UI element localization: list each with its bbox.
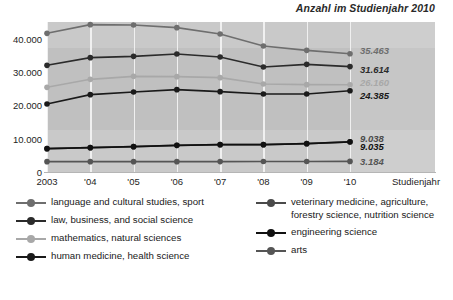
- data-point: [347, 64, 353, 70]
- legend-marker-icon: [16, 251, 46, 263]
- x-tick-label: '08: [257, 176, 269, 187]
- data-point: [87, 159, 93, 165]
- data-point: [44, 159, 50, 165]
- data-point: [347, 88, 353, 94]
- data-point: [44, 101, 50, 107]
- data-point: [304, 141, 310, 147]
- data-point: [44, 63, 50, 69]
- data-point: [174, 143, 180, 149]
- legend-item[interactable]: human medicine, health science: [16, 250, 256, 263]
- data-point: [347, 159, 353, 165]
- data-point: [131, 159, 137, 165]
- chart-title: Anzahl im Studienjahr 2010: [296, 2, 435, 14]
- data-point: [261, 81, 267, 87]
- data-point: [261, 43, 267, 49]
- x-tick-label: '05: [127, 176, 139, 187]
- x-axis-title: Studienjahr: [392, 176, 440, 187]
- legend-item[interactable]: language and cultural studies, sport: [16, 196, 256, 209]
- x-tick-label: '09: [301, 176, 313, 187]
- legend-label: human medicine, health science: [51, 250, 189, 263]
- end-value-label: 26.160: [360, 76, 389, 87]
- data-point: [347, 139, 353, 145]
- legend-item[interactable]: law, business, and social science: [16, 214, 256, 227]
- data-point: [217, 75, 223, 81]
- data-point: [44, 85, 50, 91]
- data-point: [174, 25, 180, 31]
- data-point: [261, 159, 267, 165]
- chart-root: Anzahl im Studienjahr 2010 010.00020.000…: [0, 0, 453, 300]
- data-point: [217, 89, 223, 95]
- data-point: [131, 144, 137, 150]
- data-point: [131, 89, 137, 95]
- series-line-3: [47, 90, 350, 104]
- chart-legend: language and cultural studies, sportlaw,…: [0, 196, 453, 300]
- data-point: [347, 82, 353, 88]
- data-point: [217, 142, 223, 148]
- legend-column-left: language and cultural studies, sportlaw,…: [16, 196, 256, 268]
- legend-marker-icon: [256, 197, 286, 209]
- data-point: [87, 145, 93, 151]
- legend-marker-icon: [16, 215, 46, 227]
- legend-label: mathematics, natural sciences: [51, 232, 181, 245]
- x-tick-label: '04: [84, 176, 96, 187]
- legend-marker-icon: [16, 233, 46, 245]
- y-tick-label: 30.000: [13, 67, 42, 78]
- x-tick-label: '06: [171, 176, 183, 187]
- legend-label: arts: [291, 244, 307, 257]
- data-point: [261, 64, 267, 70]
- data-point: [217, 159, 223, 165]
- x-tick-label: 2003: [36, 176, 57, 187]
- data-point: [261, 91, 267, 97]
- legend-marker-icon: [256, 245, 286, 257]
- x-axis-line: [44, 172, 436, 173]
- data-point: [261, 142, 267, 148]
- end-value-label: 3.184: [360, 156, 384, 167]
- data-point: [217, 54, 223, 60]
- legend-item[interactable]: arts: [256, 244, 451, 257]
- end-value-label: 24.385: [360, 89, 389, 100]
- legend-label: law, business, and social science: [51, 214, 193, 227]
- legend-column-right: veterinary medicine, agriculture, forest…: [256, 196, 451, 262]
- legend-label: engineering science: [291, 226, 377, 239]
- data-point: [304, 48, 310, 54]
- end-value-label: 31.614: [360, 63, 389, 74]
- end-value-label: 9.035: [360, 140, 384, 151]
- end-value-label: 35.463: [360, 44, 389, 55]
- data-point: [217, 31, 223, 37]
- legend-marker-icon: [256, 227, 286, 239]
- legend-label: language and cultural studies, sport: [51, 196, 204, 209]
- x-tick-label: '07: [214, 176, 226, 187]
- legend-marker-icon: [16, 197, 46, 209]
- legend-label: veterinary medicine, agriculture, forest…: [291, 196, 451, 221]
- y-tick-label: 20.000: [13, 100, 42, 111]
- data-point: [87, 55, 93, 61]
- y-tick-label: 40.000: [13, 33, 42, 44]
- data-point: [304, 82, 310, 88]
- data-point: [174, 159, 180, 165]
- data-point: [174, 87, 180, 93]
- legend-item[interactable]: mathematics, natural sciences: [16, 232, 256, 245]
- legend-item[interactable]: engineering science: [256, 226, 451, 239]
- legend-item[interactable]: veterinary medicine, agriculture, forest…: [256, 196, 451, 221]
- data-point: [131, 54, 137, 60]
- data-point: [304, 159, 310, 165]
- data-point: [131, 74, 137, 80]
- data-point: [304, 62, 310, 68]
- y-tick-label: 10.000: [13, 133, 42, 144]
- y-axis: 010.00020.00030.00040.000: [0, 0, 45, 180]
- data-point: [304, 91, 310, 97]
- data-point: [87, 92, 93, 98]
- data-point: [87, 77, 93, 83]
- data-point: [44, 146, 50, 152]
- x-tick-label: '10: [344, 176, 356, 187]
- data-point: [347, 51, 353, 57]
- data-point: [174, 74, 180, 80]
- data-point: [131, 22, 137, 28]
- data-point: [174, 51, 180, 57]
- data-point: [44, 31, 50, 37]
- data-point: [87, 22, 93, 28]
